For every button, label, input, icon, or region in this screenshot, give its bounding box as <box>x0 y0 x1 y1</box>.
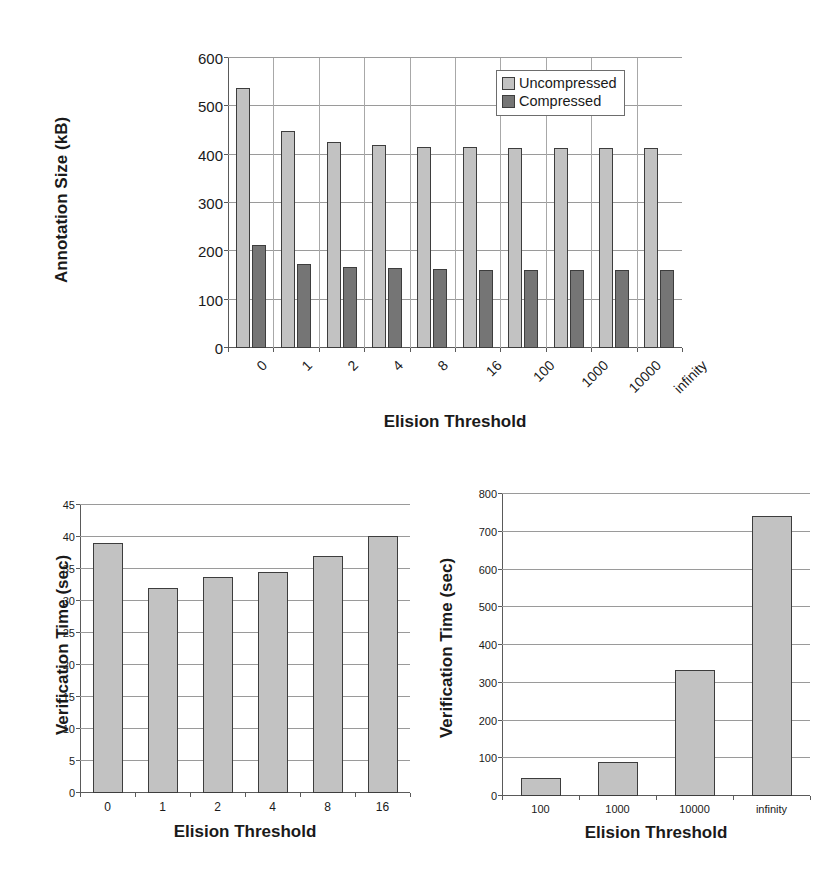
x-tick-label: infinity <box>756 803 787 815</box>
y-tick-mark <box>498 606 502 607</box>
chart-verification-time-large: 0100200300400500600700800 100100010000in… <box>0 0 840 880</box>
y-tick-mark <box>498 569 502 570</box>
x-tick-mark <box>656 796 657 800</box>
y-axis-line <box>502 494 503 796</box>
x-tick-mark <box>579 796 580 800</box>
y-tick-label: 300 <box>479 677 497 689</box>
y-axis-title: Verification Time (sec) <box>437 523 457 773</box>
y-tick-mark <box>498 493 502 494</box>
plot-area-verification-large: 0100200300400500600700800 100100010000in… <box>502 494 810 796</box>
y-tick-mark <box>498 682 502 683</box>
y-tick-label: 600 <box>479 564 497 576</box>
y-tick-mark <box>498 644 502 645</box>
x-tick-mark <box>733 796 734 800</box>
bar <box>675 670 715 796</box>
y-tick-label: 500 <box>479 601 497 613</box>
y-tick-mark <box>498 720 502 721</box>
y-tick-label: 400 <box>479 639 497 651</box>
bar <box>521 778 561 796</box>
bar <box>598 762 638 796</box>
x-axis-title: Elision Threshold <box>502 823 810 843</box>
x-tick-label: 100 <box>531 803 549 815</box>
x-tick-mark <box>502 796 503 800</box>
y-tick-label: 100 <box>479 752 497 764</box>
x-tick-mark <box>810 796 811 800</box>
y-tick-label: 0 <box>491 790 497 802</box>
y-tick-label: 800 <box>479 488 497 500</box>
x-tick-label: 1000 <box>605 803 629 815</box>
gridline <box>502 493 810 494</box>
y-tick-label: 200 <box>479 715 497 727</box>
y-tick-mark <box>498 531 502 532</box>
y-tick-label: 700 <box>479 526 497 538</box>
x-tick-label: 10000 <box>679 803 710 815</box>
bar <box>752 516 792 796</box>
y-tick-mark <box>498 757 502 758</box>
